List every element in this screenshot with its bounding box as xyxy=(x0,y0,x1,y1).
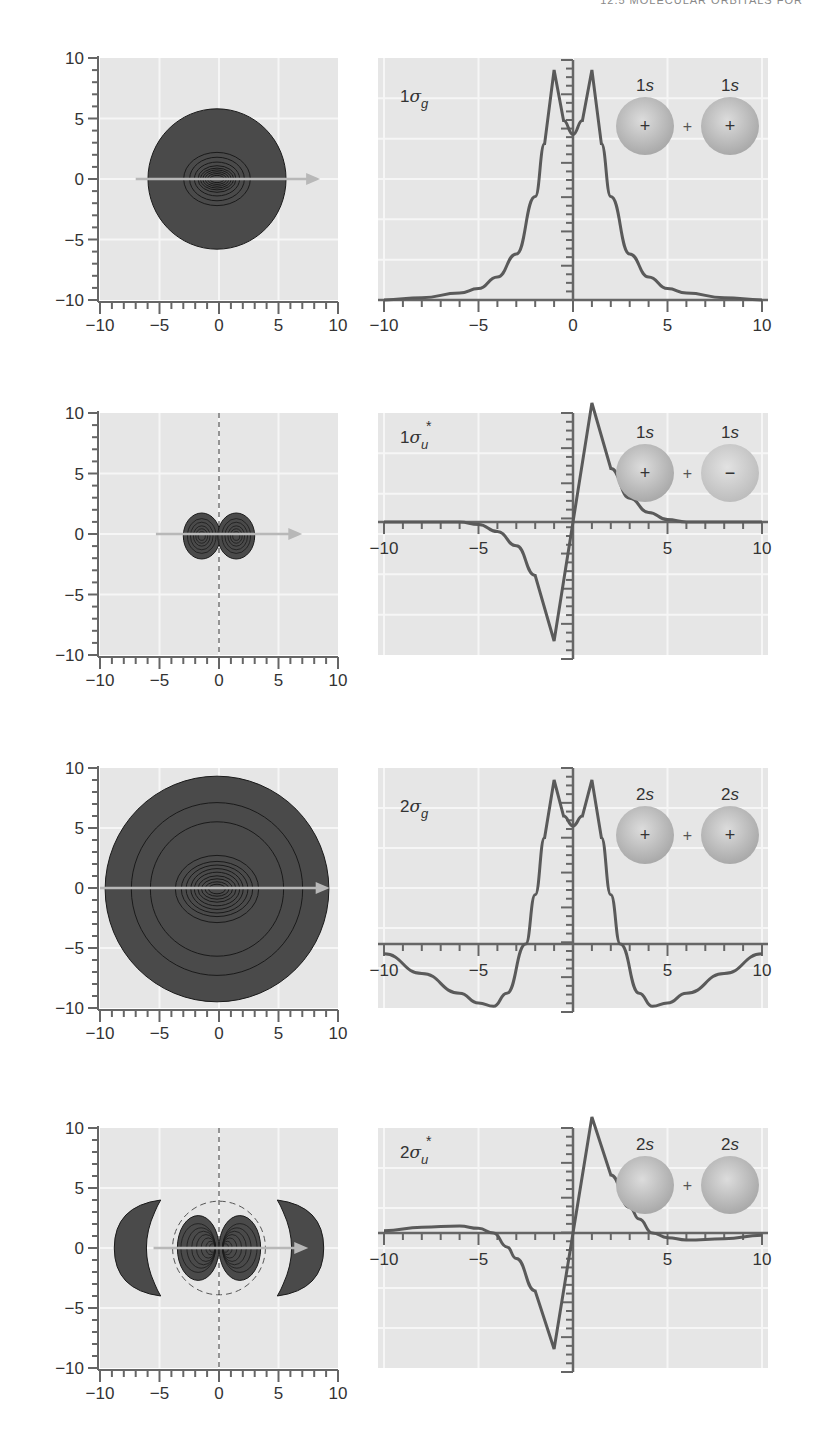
line-plot-2sigma_u_star_profile: −10−55102σu*2s2s+ xyxy=(0,0,813,1434)
svg-text:*: * xyxy=(426,1133,432,1149)
x-tick-label: 5 xyxy=(663,1250,672,1269)
x-tick-label: −5 xyxy=(469,1250,488,1269)
sphere-icon xyxy=(616,1156,674,1214)
x-tick-label: −10 xyxy=(370,1250,399,1269)
sphere-icon xyxy=(701,1156,759,1214)
x-tick-label: 10 xyxy=(753,1250,772,1269)
atomic-orbital-label: 2s xyxy=(721,1135,739,1154)
plus-operator-icon: + xyxy=(683,1177,692,1194)
atomic-orbital-label: 2s xyxy=(636,1135,654,1154)
